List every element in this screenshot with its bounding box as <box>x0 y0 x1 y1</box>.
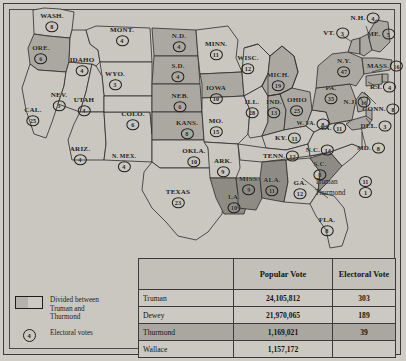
state-label-me: ME.5 <box>367 29 395 40</box>
map-legend: Divided between Truman and Thurmond 4 El… <box>14 296 134 349</box>
electoral-votes: 10 <box>188 156 201 167</box>
state-name: DEL. <box>361 122 378 130</box>
electoral-votes: 25 <box>290 105 303 116</box>
state-name: WYO. <box>105 70 125 78</box>
table-row: Thurmond1,169,02139 <box>139 324 396 341</box>
state-name: MO. <box>209 117 223 125</box>
electoral-votes: 28 <box>246 107 259 118</box>
state-name: MASS. <box>367 62 389 70</box>
electoral-votes: 4 <box>75 65 88 76</box>
cell-candidate: Truman <box>139 290 234 307</box>
electoral-votes: 6 <box>127 119 140 130</box>
cell-electoral-vote <box>333 341 396 358</box>
state-name: OKLA. <box>182 147 205 155</box>
electoral-votes: 4 <box>117 161 130 172</box>
electoral-votes: 8 <box>321 225 334 236</box>
state-label-co: COLO.6 <box>121 110 144 130</box>
state-name: TEXAS <box>166 188 190 196</box>
electoral-votes: 8 <box>372 143 385 154</box>
cell-candidate: Wallace <box>139 341 234 358</box>
electoral-votes: 10 <box>228 202 241 213</box>
state-name: WISC. <box>237 54 258 62</box>
state-name: ILL. <box>245 98 260 106</box>
state-label-mo: MO.15 <box>209 117 223 137</box>
electoral-votes: 4 <box>172 41 185 52</box>
electoral-votes: 4 <box>172 71 185 82</box>
state-name: VT. <box>323 29 335 37</box>
state-label-ga: GA.12 <box>294 179 307 199</box>
cell-candidate: Thurmond <box>139 324 234 341</box>
electoral-votes: 4 <box>115 35 128 46</box>
electoral-votes-icon: 4 <box>23 329 36 342</box>
state-label-nv: NEV.3 <box>51 91 67 111</box>
state-name: N.D. <box>172 32 186 40</box>
state-name: R.I. <box>370 83 382 91</box>
state-label-id: IDAHO4 <box>70 56 95 76</box>
cell-electoral-vote: 189 <box>333 307 396 324</box>
state-name: N.H. <box>351 14 366 22</box>
state-name: ALA. <box>263 176 280 184</box>
electoral-votes: 3 <box>53 100 66 111</box>
state-label-nm: N. MEX.4 <box>112 152 136 172</box>
state-name: FLA. <box>319 216 336 224</box>
electoral-votes: 6 <box>34 53 47 64</box>
state-name: N.J. <box>344 98 357 106</box>
state-label-fl: FLA.8 <box>319 216 336 236</box>
state-label-wv: W. VA.8 <box>297 119 330 130</box>
electoral-votes: 35 <box>325 93 338 104</box>
state-label-de: DEL.3 <box>361 121 392 132</box>
state-name: PA. <box>325 84 336 92</box>
electoral-votes: 16 <box>357 97 370 108</box>
electoral-votes: 11 <box>266 185 279 196</box>
state-label-az: ARIZ.4 <box>70 145 90 165</box>
state-name: COLO. <box>121 110 144 118</box>
state-name: IDAHO <box>70 56 95 64</box>
table-row: Truman24,105,812303 <box>139 290 396 307</box>
tn-annot-candidate: Thurmond <box>315 188 359 198</box>
state-name: WASH. <box>40 12 63 20</box>
state-label-mn: MINN.11 <box>205 40 227 60</box>
legend-label-divided: Divided between Truman and Thurmond <box>44 296 99 322</box>
cell-popular-vote: 24,105,812 <box>234 290 333 307</box>
electoral-votes: 9 <box>243 184 256 195</box>
state-name: MISS. <box>239 175 259 183</box>
state-label-tn: TENN.12 <box>263 151 299 162</box>
tn-annot-row: Thurmond1 <box>315 187 372 198</box>
state-label-ks: KANS.8 <box>176 119 198 139</box>
electoral-votes: 25 <box>27 115 40 126</box>
state-label-ia: IOWA10 <box>206 84 226 104</box>
electoral-votes: 4 <box>73 154 86 165</box>
divided-swatch <box>15 296 43 309</box>
state-name: MD. <box>357 144 371 152</box>
electoral-votes: 9 <box>216 166 229 177</box>
state-name: IOWA <box>206 84 226 92</box>
electoral-votes: 10 <box>210 93 223 104</box>
state-label-ky: KY.11 <box>275 133 301 144</box>
legend-label-electoral: Electoral votes <box>44 329 93 338</box>
state-name: ME. <box>367 30 381 38</box>
legend-divided-line3: Thurmond <box>50 313 80 321</box>
state-name: MICH. <box>267 71 290 79</box>
tn-annot-row: Truman11 <box>315 176 372 187</box>
state-label-wy: WYO.3 <box>105 70 125 90</box>
electoral-votes: 8 <box>180 128 193 139</box>
electoral-votes: 11 <box>333 123 346 134</box>
electoral-votes: 13 <box>267 107 280 118</box>
state-name: UTAH <box>74 96 95 104</box>
electoral-votes: 6 <box>173 101 186 112</box>
state-label-ms: MISS.9 <box>239 175 259 195</box>
state-label-wi: WISC.12 <box>237 54 258 74</box>
electoral-votes: 4 <box>383 82 396 93</box>
electoral-votes: 47 <box>338 66 351 77</box>
cell-electoral-vote: 303 <box>333 290 396 307</box>
state-label-il: ILL.28 <box>245 98 260 118</box>
tn-annot-candidate: Truman <box>315 177 359 187</box>
state-name: W. VA. <box>297 120 316 126</box>
electoral-votes: 11 <box>288 133 301 144</box>
state-label-in: IND.13 <box>266 98 281 118</box>
state-name: ARIZ. <box>70 145 90 153</box>
tn-annot-votes: 11 <box>359 176 372 187</box>
state-name: CAL. <box>24 106 41 114</box>
table-row: Dewey21,970,065189 <box>139 307 396 324</box>
electoral-votes: 23 <box>172 197 185 208</box>
